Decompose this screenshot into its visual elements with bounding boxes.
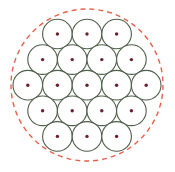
circle-center-dot — [115, 32, 118, 35]
circle-center-dot — [71, 58, 74, 61]
circle-center-dot — [41, 109, 44, 112]
packing-diagram — [0, 0, 175, 172]
circle-center-dot — [41, 58, 44, 61]
circle-center-dot — [85, 32, 88, 35]
circle-center-dot — [71, 109, 74, 112]
circle-center-dot — [85, 84, 88, 87]
circle-center-dot — [26, 84, 29, 87]
circle-center-dot — [100, 109, 103, 112]
circle-center-dot — [130, 58, 133, 61]
circle-center-dot — [100, 58, 103, 61]
circle-center-dot — [115, 135, 118, 138]
circle-center-dot — [85, 135, 88, 138]
circle-center-dot — [56, 135, 59, 138]
circle-center-dot — [145, 84, 148, 87]
circle-center-dot — [115, 84, 118, 87]
caption-artifact — [104, 160, 170, 166]
circle-packing-figure — [0, 0, 175, 172]
circle-center-dot — [56, 32, 59, 35]
circle-center-dot — [130, 109, 133, 112]
circle-center-dot — [56, 84, 59, 87]
